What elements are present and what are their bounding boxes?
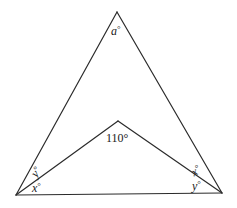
- inner-angle-label: 110°: [106, 131, 129, 145]
- top-angle-label: a°: [111, 24, 121, 38]
- left-upper-angle-label: y°: [27, 164, 44, 181]
- inner-right-segment: [118, 121, 222, 193]
- right-upper-angle-label: x°: [188, 162, 204, 179]
- base: [16, 193, 222, 195]
- triangle-diagram: a° 110° y° x° x° y°: [0, 0, 237, 208]
- left-lower-angle-label: x°: [31, 181, 41, 195]
- right-lower-angle-label: y°: [191, 179, 201, 193]
- right-side: [117, 12, 222, 193]
